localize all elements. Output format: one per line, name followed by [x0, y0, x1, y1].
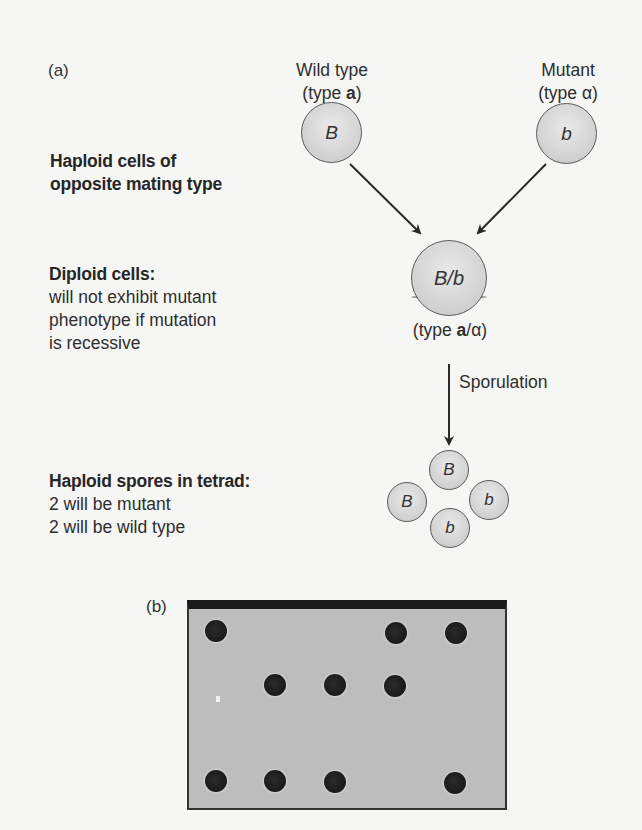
colony: [445, 622, 467, 644]
plate-speck: [216, 696, 220, 702]
colony: [385, 622, 407, 644]
diploid-type-label: (type a/α): [392, 319, 508, 342]
replica-plate: [187, 600, 507, 810]
colony: [264, 674, 286, 696]
panel-b-label: (b): [146, 597, 167, 617]
arrow-mutant-to-diploid: [478, 164, 546, 233]
spore-bottom: b: [430, 508, 470, 548]
diploid-cell: B/b: [411, 240, 487, 316]
colony: [384, 675, 406, 697]
spore-top: B: [429, 450, 469, 490]
colony: [205, 770, 227, 792]
colony: [444, 772, 466, 794]
diploid-description: Diploid cells: will not exhibit mutant p…: [49, 263, 216, 355]
spore-right: b: [469, 480, 509, 520]
colony: [205, 620, 227, 642]
arrow-wild-to-diploid: [350, 164, 420, 233]
colony: [264, 770, 286, 792]
tetrad-description: Haploid spores in tetrad: 2 will be muta…: [49, 470, 250, 539]
colony: [324, 771, 346, 793]
sporulation-label: Sporulation: [459, 372, 548, 393]
spore-left: B: [387, 482, 427, 522]
colony: [324, 674, 346, 696]
